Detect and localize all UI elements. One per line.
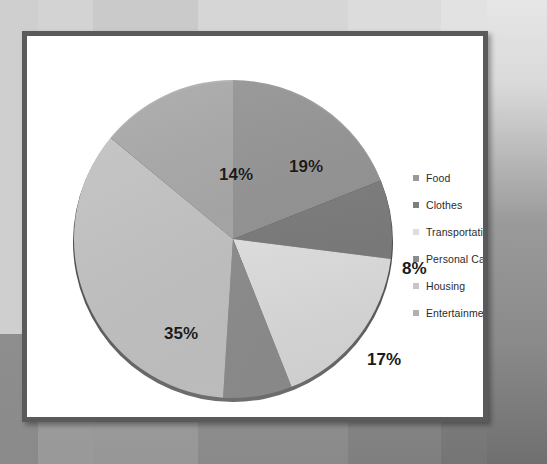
- legend-item-entertainment[interactable]: Entertainment: [413, 299, 483, 326]
- legend-item-transportation[interactable]: Transportation: [413, 218, 483, 245]
- background-band: [487, 0, 547, 464]
- pie-chart: 19%8%17%7%35%14%: [71, 62, 395, 407]
- legend-item-housing[interactable]: Housing: [413, 272, 483, 299]
- legend-item-personal-care-items[interactable]: Personal Care Items: [413, 245, 483, 272]
- legend-item-label: Personal Care Items: [426, 253, 483, 265]
- pie-data-label-transportation: 17%: [367, 350, 401, 370]
- pie-data-label-entertainment: 14%: [219, 165, 253, 185]
- chart-panel-inner: 19%8%17%7%35%14% FoodClothesTransportati…: [27, 36, 483, 417]
- legend-item-label: Housing: [426, 280, 465, 292]
- legend-item-label: Entertainment: [426, 307, 483, 319]
- legend-item-label: Clothes: [426, 199, 462, 211]
- legend-item-label: Food: [426, 172, 450, 184]
- legend-item-clothes[interactable]: Clothes: [413, 191, 483, 218]
- legend-swatch-icon: [413, 202, 419, 208]
- pie-chart-svg: [71, 62, 395, 407]
- legend-item-food[interactable]: Food: [413, 164, 483, 191]
- legend-item-label: Transportation: [426, 226, 483, 238]
- legend-swatch-icon: [413, 310, 419, 316]
- chart-panel: 19%8%17%7%35%14% FoodClothesTransportati…: [22, 31, 488, 422]
- pie-slice-group: [74, 80, 392, 398]
- pie-data-label-housing: 35%: [164, 324, 198, 344]
- legend-swatch-icon: [413, 229, 419, 235]
- legend-swatch-icon: [413, 283, 419, 289]
- legend-swatch-icon: [413, 175, 419, 181]
- slide-screenshot: 19%8%17%7%35%14% FoodClothesTransportati…: [0, 0, 547, 464]
- legend-swatch-icon: [413, 256, 419, 262]
- chart-legend: FoodClothesTransportationPersonal Care I…: [413, 164, 483, 326]
- pie-data-label-food: 19%: [289, 157, 323, 177]
